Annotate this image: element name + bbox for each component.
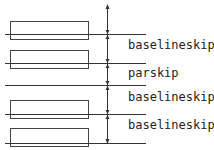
text-boxes — [11, 22, 89, 147]
line-box-2 — [11, 51, 89, 69]
label-baselineskip-2: baselineskip — [128, 90, 214, 104]
baselineskip-parskip-diagram: baselineskip parskip baselineskip baseli… — [0, 0, 214, 150]
line-box-1 — [11, 22, 89, 40]
dimension-axis — [106, 4, 110, 144]
line-box-3 — [11, 101, 89, 119]
arrow-up-icon — [106, 4, 110, 9]
label-baselineskip-1: baselineskip — [128, 38, 214, 52]
label-parskip: parskip — [128, 66, 179, 80]
label-baselineskip-3: baselineskip — [128, 118, 214, 132]
